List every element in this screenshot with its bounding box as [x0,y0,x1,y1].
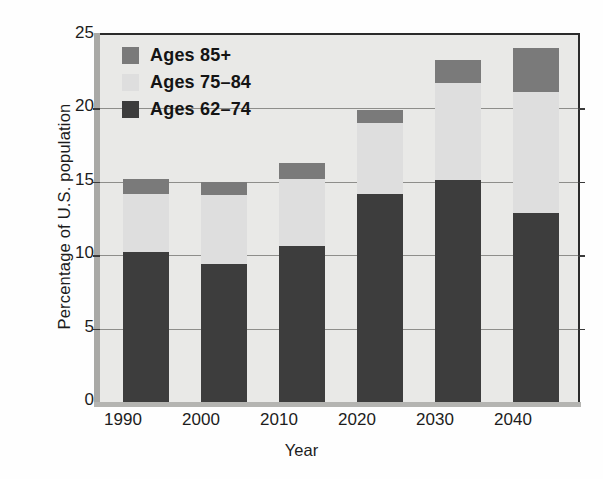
bar-segment [279,246,325,402]
chart-legend: Ages 85+ Ages 75–84 Ages 62–74 [122,42,251,123]
chart-figure: Percentage of U.S. population 25 20 15 1… [0,0,603,479]
bar-segment [123,252,169,402]
bar-segment [513,48,559,92]
tick-mark [578,182,585,184]
tick-mark [578,255,585,257]
x-tick-label: 2030 [390,410,480,430]
tick-mark [578,108,585,110]
x-tick-label: 1990 [78,410,168,430]
y-tick-label: 0 [50,390,94,410]
y-tick-label: 25 [50,23,94,43]
legend-item-ages-62-74: Ages 62–74 [122,96,251,123]
y-axis-tick-labels: 25 20 15 10 5 0 [40,0,94,479]
gridline-5 [100,329,578,330]
tick-mark [93,108,100,110]
y-tick-label: 20 [50,96,94,116]
bar-segment [513,92,559,212]
bar-segment [357,123,403,193]
x-tick-label: 2010 [234,410,324,430]
bar-segment [357,194,403,402]
bar-segment [435,83,481,180]
legend-label: Ages 85+ [150,45,231,66]
legend-swatch-icon [122,74,139,91]
x-tick-label: 2020 [312,410,402,430]
tick-mark [578,329,585,331]
tick-mark [93,329,100,331]
bar-segment [357,110,403,123]
bar-segment [435,180,481,402]
bar-segment [123,194,169,253]
gridline-15 [100,182,578,183]
y-tick-label: 10 [50,243,94,263]
tick-mark [93,255,100,257]
legend-item-ages-75-84: Ages 75–84 [122,69,251,96]
bar-segment [201,195,247,264]
bar-segment [279,163,325,179]
y-tick-label: 15 [50,170,94,190]
x-tick-label: 2000 [156,410,246,430]
bar-segment [435,60,481,83]
x-axis-title: Year [0,441,603,460]
legend-label: Ages 75–84 [150,72,251,93]
bar-segment [201,264,247,402]
x-tick-label: 2040 [468,410,558,430]
gridline-10 [100,255,578,256]
legend-item-ages-85-plus: Ages 85+ [122,42,251,69]
bar-segment [513,213,559,402]
bar-segment [123,179,169,194]
legend-swatch-icon [122,101,139,118]
bar-segment [279,179,325,247]
tick-mark [93,182,100,184]
legend-swatch-icon [122,47,139,64]
legend-label: Ages 62–74 [150,99,251,120]
y-tick-label: 5 [50,317,94,337]
bar-segment [201,182,247,195]
